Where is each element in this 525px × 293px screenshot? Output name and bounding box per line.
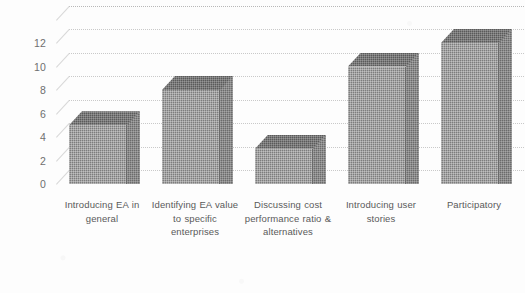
x-axis-category-label: Participatory: [428, 198, 520, 212]
y-axis-tick-labels: 024681012: [0, 0, 46, 293]
x-axis-category-label: Introducing EA in general: [56, 198, 148, 225]
depth-connector-line: [56, 123, 70, 138]
bar-side-face: [406, 53, 419, 185]
x-axis-category-label: Identifying EA value to specific enterpr…: [149, 198, 241, 239]
gridline: [69, 6, 524, 7]
bar-front-face: [162, 90, 220, 184]
depth-connector-line: [56, 53, 70, 68]
bar: [348, 53, 419, 185]
bar-side-face: [499, 29, 512, 184]
plot-area: 024681012 Introducing EA in generalIdent…: [0, 0, 525, 293]
y-axis-tick-label: 12: [20, 38, 46, 48]
bar: [255, 135, 326, 184]
bar-front-face: [348, 67, 406, 185]
y-axis-tick-label: 6: [20, 109, 46, 119]
y-axis-tick-label: 8: [20, 85, 46, 95]
bar-front-face: [69, 125, 127, 184]
bar-chart: 024681012 Introducing EA in generalIdent…: [0, 0, 525, 293]
y-axis-tick-label: 2: [20, 156, 46, 166]
bar: [69, 111, 140, 184]
bar: [441, 29, 512, 184]
depth-connector-line: [56, 170, 70, 185]
bar-front-face: [255, 149, 313, 184]
depth-connector-line: [56, 6, 70, 21]
bar: [162, 76, 233, 184]
depth-connector-line: [56, 100, 70, 115]
y-axis-tick-label: 0: [20, 179, 46, 189]
depth-connector-line: [56, 29, 70, 44]
x-axis-category-label: Introducing user stories: [335, 198, 427, 225]
x-axis-category-label: Discussing cost performance ratio & alte…: [242, 198, 334, 239]
depth-connector-line: [56, 76, 70, 91]
bar-side-face: [220, 76, 233, 184]
y-axis-tick-label: 4: [20, 132, 46, 142]
bar-front-face: [441, 43, 499, 184]
y-axis-tick-label: 10: [20, 62, 46, 72]
depth-connector-line: [56, 147, 70, 162]
